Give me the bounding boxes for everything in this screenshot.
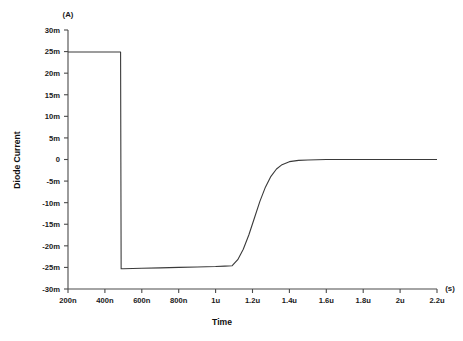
- diode-current-chart: 30m25m20m15m10m5m0-5m-10m-15m-20m-25m-30…: [0, 0, 463, 341]
- y-axis-ticks: [64, 30, 68, 289]
- y-tick-label: 15m: [45, 91, 60, 100]
- y-axis-tick-labels: 30m25m20m15m10m5m0-5m-10m-15m-20m-25m-30…: [42, 26, 60, 294]
- y-tick-label: -30m: [42, 285, 60, 294]
- x-tick-label: 1.6u: [319, 296, 335, 305]
- x-tick-label: 2.2u: [429, 296, 445, 305]
- chart-canvas: 30m25m20m15m10m5m0-5m-10m-15m-20m-25m-30…: [0, 0, 463, 341]
- y-tick-label: -15m: [42, 220, 60, 229]
- y-tick-label: -5m: [46, 177, 60, 186]
- y-tick-label: -10m: [42, 199, 60, 208]
- x-tick-label: 800n: [170, 296, 188, 305]
- y-tick-label: 10m: [45, 112, 60, 121]
- x-axis-unit-label: (s): [445, 284, 455, 293]
- y-tick-label: 30m: [45, 26, 60, 35]
- x-tick-label: 1.8u: [356, 296, 372, 305]
- x-axis-ticks: [68, 289, 437, 293]
- x-tick-label: 1.2u: [245, 296, 261, 305]
- y-tick-label: 0: [56, 155, 60, 164]
- x-axis-group: 200n400n600n800n1u1.2u1.4u1.6u1.8u2u2.2u: [59, 289, 445, 305]
- x-axis-tick-labels: 200n400n600n800n1u1.2u1.4u1.6u1.8u2u2.2u: [59, 296, 445, 305]
- y-axis-unit-label: (A): [63, 10, 74, 19]
- y-axis-group: 30m25m20m15m10m5m0-5m-10m-15m-20m-25m-30…: [42, 26, 68, 294]
- x-tick-label: 200n: [59, 296, 77, 305]
- data-series-group: [68, 52, 437, 269]
- x-tick-label: 400n: [96, 296, 114, 305]
- y-tick-label: 20m: [45, 69, 60, 78]
- x-tick-label: 2u: [396, 296, 405, 305]
- x-axis-title: Time: [212, 317, 232, 327]
- y-tick-label: 5m: [49, 134, 60, 143]
- x-tick-label: 1.4u: [282, 296, 298, 305]
- y-tick-label: 25m: [45, 47, 60, 56]
- x-tick-label: 1u: [211, 296, 220, 305]
- y-axis-title: Diode Current: [12, 131, 22, 188]
- y-tick-label: -25m: [42, 263, 60, 272]
- x-tick-label: 600n: [133, 296, 151, 305]
- series-line: [68, 52, 437, 269]
- y-tick-label: -20m: [42, 242, 60, 251]
